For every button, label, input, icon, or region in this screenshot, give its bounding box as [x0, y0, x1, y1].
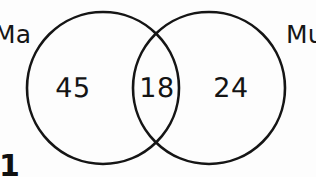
venn-count-right-only: 24 — [213, 73, 248, 104]
venn-count-intersection: 18 — [139, 73, 174, 104]
venn-set-label-right: Mu — [286, 20, 316, 49]
corner-number: 1 — [0, 148, 20, 177]
venn-set-label-left: Ma — [0, 20, 32, 49]
venn-diagram-canvas: 45 18 24 Ma Mu 1 — [0, 0, 316, 177]
venn-count-left-only: 45 — [55, 73, 90, 104]
